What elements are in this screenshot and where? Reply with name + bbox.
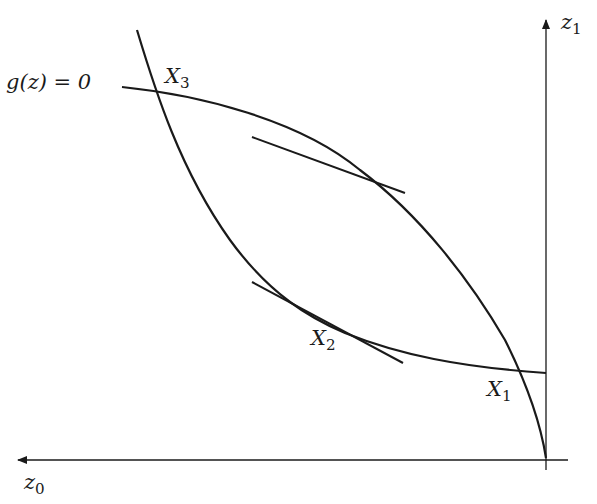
z0-sub: 0 bbox=[35, 480, 45, 498]
x3-sub: 3 bbox=[180, 74, 190, 92]
point-label-x2: X2 bbox=[311, 326, 336, 354]
point-label-x1: X1 bbox=[487, 377, 512, 405]
curve-g bbox=[122, 87, 546, 458]
z1-base: z bbox=[561, 10, 572, 34]
curve-h bbox=[137, 30, 546, 373]
x1-base: X bbox=[487, 377, 502, 401]
x2-base: X bbox=[311, 326, 326, 350]
x1-sub: 1 bbox=[502, 387, 512, 405]
axis-label-z1: z1 bbox=[561, 10, 582, 38]
x3-base: X bbox=[165, 64, 180, 88]
z1-sub: 1 bbox=[572, 20, 582, 38]
z0-base: z bbox=[24, 470, 35, 494]
axis-label-z0: z0 bbox=[24, 470, 45, 498]
point-label-x3: X3 bbox=[165, 64, 190, 92]
diagram-canvas: g(z) = 0 X3 X2 X1 z1 z0 bbox=[0, 0, 597, 504]
tangent-upper bbox=[252, 137, 405, 193]
curve-label: g(z) = 0 bbox=[6, 70, 91, 94]
x2-sub: 2 bbox=[326, 336, 336, 354]
curve-label-text: g(z) = 0 bbox=[6, 70, 91, 94]
